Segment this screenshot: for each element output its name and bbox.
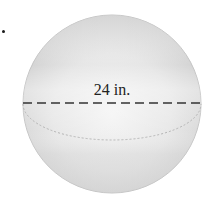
diameter-label: 24 in. xyxy=(94,81,130,98)
sphere-shading-band xyxy=(23,15,201,193)
sphere-figure: 24 in. xyxy=(0,0,223,205)
sphere-diagram: 24 in. xyxy=(0,0,223,205)
